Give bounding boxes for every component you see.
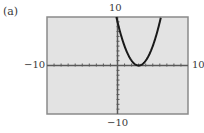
calculator-screen bbox=[0, 0, 204, 133]
